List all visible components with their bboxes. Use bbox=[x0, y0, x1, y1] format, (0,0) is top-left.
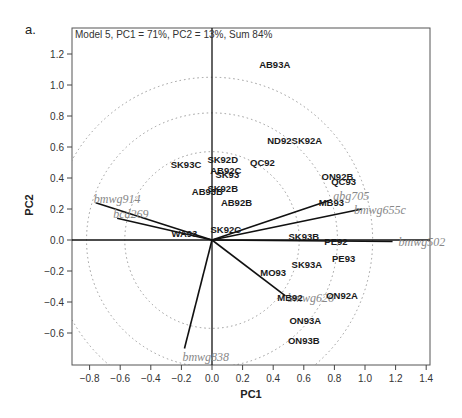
y-tick-label: 0.6 bbox=[50, 142, 64, 153]
score-label: SK93 bbox=[215, 169, 239, 180]
x-tick-label: 1.2 bbox=[389, 373, 403, 384]
y-tick-label: −0.6 bbox=[44, 328, 64, 339]
score-label: QC93 bbox=[331, 176, 356, 187]
score-label: QC92 bbox=[250, 157, 275, 168]
y-tick-label: −0.4 bbox=[44, 297, 64, 308]
score-label: SK93C bbox=[171, 159, 202, 170]
score-label: SK93A bbox=[292, 259, 323, 270]
score-label: AB93B bbox=[192, 186, 223, 197]
score-label: ON93B bbox=[288, 335, 320, 346]
x-tick-label: −0.8 bbox=[80, 373, 100, 384]
y-tick-label: 0.2 bbox=[50, 204, 64, 215]
score-label: MO93 bbox=[260, 267, 286, 278]
vector-label: bmwg655c bbox=[354, 203, 407, 217]
vector-label: bcd269 bbox=[113, 207, 148, 221]
score-label: AB93A bbox=[259, 59, 290, 70]
chart-title: Model 5, PC1 = 71%, PC2 = 13%, Sum 84% bbox=[75, 29, 272, 40]
score-label: AB92B bbox=[221, 197, 252, 208]
x-tick-label: 0.4 bbox=[266, 373, 280, 384]
y-tick-label: 0.0 bbox=[50, 235, 64, 246]
y-tick-label: 0.4 bbox=[50, 173, 64, 184]
loading-vector bbox=[117, 218, 212, 240]
x-axis-ticks: −0.8−0.6−0.4−0.20.00.20.40.60.81.01.21.4 bbox=[80, 365, 434, 384]
y-axis-title: PC2 bbox=[23, 194, 35, 215]
score-label: SK92D bbox=[207, 154, 238, 165]
score-label: SK93B bbox=[288, 231, 319, 242]
x-tick-label: −0.4 bbox=[141, 373, 161, 384]
y-tick-label: 1.0 bbox=[50, 80, 64, 91]
x-tick-label: 1.0 bbox=[358, 373, 372, 384]
vector-label: bmwg838 bbox=[182, 350, 229, 364]
x-tick-label: 0.0 bbox=[205, 373, 219, 384]
y-tick-label: 0.8 bbox=[50, 111, 64, 122]
loading-vector bbox=[184, 240, 212, 349]
score-label: MB93 bbox=[319, 197, 344, 208]
x-tick-label: 0.8 bbox=[327, 373, 341, 384]
y-tick-label: −0.2 bbox=[44, 266, 64, 277]
vector-label: bmwg502 bbox=[399, 235, 446, 249]
score-label: PE92 bbox=[324, 236, 347, 247]
vector-label: bmwg914 bbox=[94, 192, 141, 206]
x-tick-label: 1.4 bbox=[419, 373, 433, 384]
score-label: SK92A bbox=[292, 135, 323, 146]
x-tick-label: 0.2 bbox=[236, 373, 250, 384]
score-label: ON93A bbox=[289, 315, 321, 326]
score-label: ON92A bbox=[326, 290, 358, 301]
x-tick-label: −0.6 bbox=[110, 373, 130, 384]
score-label: MB92 bbox=[277, 292, 302, 303]
x-tick-label: 0.6 bbox=[297, 373, 311, 384]
x-tick-label: −0.2 bbox=[172, 373, 192, 384]
x-axis-title: PC1 bbox=[240, 388, 261, 400]
y-axis-ticks: −0.6−0.4−0.20.00.20.40.60.81.01.2 bbox=[44, 49, 72, 339]
score-label: SK92C bbox=[210, 224, 241, 235]
score-label: ND92 bbox=[267, 135, 291, 146]
score-label: WA93 bbox=[172, 228, 198, 239]
score-label: PE93 bbox=[332, 253, 355, 264]
biplot-chart: −0.8−0.6−0.4−0.20.00.20.40.60.81.01.21.4… bbox=[0, 0, 462, 418]
y-tick-label: 1.2 bbox=[50, 49, 64, 60]
